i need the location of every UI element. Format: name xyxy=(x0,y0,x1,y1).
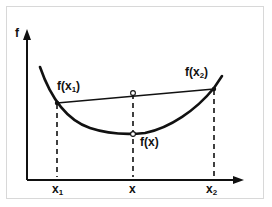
point-chord-midpoint xyxy=(131,91,136,96)
point-fx2 xyxy=(212,87,216,91)
label-f-of-x: f(x) xyxy=(140,136,159,148)
convexity-plot xyxy=(0,0,272,207)
label-f-of-x2: f(x2) xyxy=(185,66,208,78)
x-tick-label-x: x xyxy=(129,183,136,195)
y-axis-arrowhead xyxy=(23,29,31,40)
label-f-of-x1: f(x1) xyxy=(57,80,80,92)
x-axis-arrowhead xyxy=(233,176,244,184)
x-tick-label-x1: x1 xyxy=(52,183,63,195)
figure-root: f f(x1) f(x2) f(x) x1 x x2 xyxy=(0,0,272,207)
y-axis-label: f xyxy=(15,27,19,39)
point-fx1 xyxy=(55,101,59,105)
point-fx-minimum xyxy=(131,132,136,137)
chord-secant-line xyxy=(57,89,214,103)
x-tick-label-x2: x2 xyxy=(206,183,217,195)
